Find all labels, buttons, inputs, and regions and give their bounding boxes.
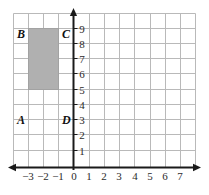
x-tick-label: −2	[37, 170, 49, 182]
y-tick-label: 4	[79, 99, 85, 111]
x-tick-label: 3	[116, 170, 122, 182]
graph-canvas: −3 −2 −1 0 1 2 3 4 5 6 7 1 2 3 4 5 6 7 8…	[0, 0, 209, 195]
vertex-label-b: B	[16, 27, 25, 41]
x-tick-label: 4	[132, 170, 138, 182]
x-tick-label: 7	[177, 170, 183, 182]
y-tick-label: 6	[79, 68, 85, 80]
x-tick-label: 0	[71, 170, 77, 182]
coordinate-plane-figure: −3 −2 −1 0 1 2 3 4 5 6 7 1 2 3 4 5 6 7 8…	[0, 0, 209, 195]
y-tick-label: 2	[79, 129, 85, 141]
vertex-label-a: A	[16, 113, 25, 127]
x-tick-label: 6	[162, 170, 168, 182]
vertex-label-c: C	[62, 27, 71, 41]
y-tick-label: 9	[79, 23, 85, 35]
shaded-rectangle-abcd	[29, 29, 59, 90]
x-tick-label: 2	[101, 170, 107, 182]
vertex-label-d: D	[61, 113, 71, 127]
y-tick-label: 1	[79, 145, 85, 157]
y-tick-label: 5	[79, 84, 85, 96]
y-tick-label: 3	[79, 114, 85, 126]
x-tick-label: 1	[86, 170, 92, 182]
y-tick-label: 8	[79, 38, 85, 50]
y-tick-label: 7	[79, 53, 85, 65]
x-tick-label: 5	[147, 170, 153, 182]
x-tick-label: −3	[22, 170, 34, 182]
x-tick-label: −1	[52, 170, 64, 182]
y-axis-tick-labels: 1 2 3 4 5 6 7 8 9	[79, 23, 85, 157]
